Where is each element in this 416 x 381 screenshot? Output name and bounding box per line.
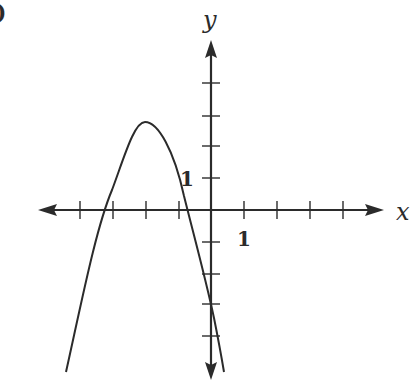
coordinate-plane: ) y x 1	[0, 0, 416, 381]
corner-label-fragment: )	[0, 0, 6, 25]
parabola-curve	[66, 122, 224, 372]
y-axis-label: y	[202, 6, 217, 34]
x-unit-label: 1	[237, 227, 251, 251]
x-axis-label: x	[396, 198, 410, 226]
